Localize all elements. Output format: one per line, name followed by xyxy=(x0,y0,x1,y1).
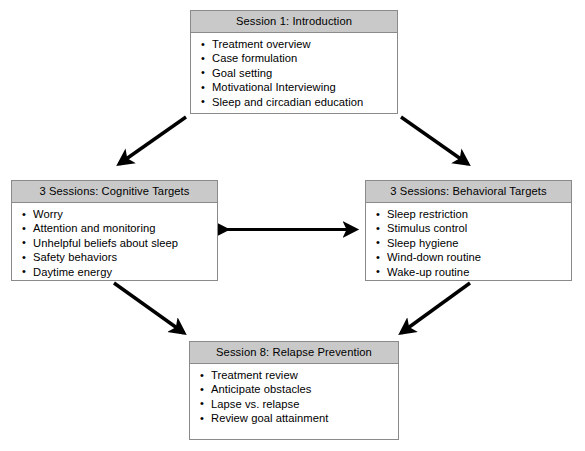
box-introduction: Session 1: Introduction Treatment overvi… xyxy=(190,10,398,114)
box-behavioral-targets-header: 3 Sessions: Behavioral Targets xyxy=(366,181,571,203)
list-item: Case formulation xyxy=(201,51,391,65)
list-item: Motivational Interviewing xyxy=(201,80,391,94)
list-item: Sleep and circadian education xyxy=(201,95,391,109)
list-item: Lapse vs. relapse xyxy=(200,397,392,411)
box-introduction-header: Session 1: Introduction xyxy=(191,11,397,33)
list-item: Sleep hygiene xyxy=(376,236,565,250)
list-item: Daytime energy xyxy=(22,265,211,279)
box-behavioral-targets-list: Sleep restriction Stimulus control Sleep… xyxy=(376,207,565,279)
box-introduction-list: Treatment overview Case formulation Goal… xyxy=(201,37,391,109)
box-cognitive-targets-list: Worry Attention and monitoring Unhelpful… xyxy=(22,207,211,279)
list-item: Anticipate obstacles xyxy=(200,382,392,396)
box-introduction-body: Treatment overview Case formulation Goal… xyxy=(191,33,397,114)
list-item: Wake-up routine xyxy=(376,265,565,279)
diagram-canvas: Session 1: Introduction Treatment overvi… xyxy=(0,0,585,451)
list-item: Sleep restriction xyxy=(376,207,565,221)
list-item: Goal setting xyxy=(201,66,391,80)
arrow-introduction-to-behavioral xyxy=(401,117,468,164)
box-relapse-prevention: Session 8: Relapse Prevention Treatment … xyxy=(189,341,399,440)
box-cognitive-targets-header: 3 Sessions: Cognitive Targets xyxy=(12,181,217,203)
list-item: Review goal attainment xyxy=(200,411,392,425)
list-item: Worry xyxy=(22,207,211,221)
box-cognitive-targets-body: Worry Attention and monitoring Unhelpful… xyxy=(12,203,217,284)
list-item: Stimulus control xyxy=(376,221,565,235)
arrow-introduction-to-cognitive xyxy=(119,117,186,164)
arrow-cognitive-to-relapse xyxy=(114,283,184,333)
box-relapse-prevention-body: Treatment review Anticipate obstacles La… xyxy=(190,364,398,431)
box-behavioral-targets-body: Sleep restriction Stimulus control Sleep… xyxy=(366,203,571,284)
list-item: Attention and monitoring xyxy=(22,221,211,235)
list-item: Treatment overview xyxy=(201,37,391,51)
box-cognitive-targets: 3 Sessions: Cognitive Targets Worry Atte… xyxy=(11,180,218,281)
list-item: Wind-down routine xyxy=(376,250,565,264)
list-item: Safety behaviors xyxy=(22,250,211,264)
box-behavioral-targets: 3 Sessions: Behavioral Targets Sleep res… xyxy=(365,180,572,281)
arrow-behavioral-to-relapse xyxy=(401,283,470,333)
box-relapse-prevention-header: Session 8: Relapse Prevention xyxy=(190,342,398,364)
box-relapse-prevention-list: Treatment review Anticipate obstacles La… xyxy=(200,368,392,426)
list-item: Unhelpful beliefs about sleep xyxy=(22,236,211,250)
list-item: Treatment review xyxy=(200,368,392,382)
